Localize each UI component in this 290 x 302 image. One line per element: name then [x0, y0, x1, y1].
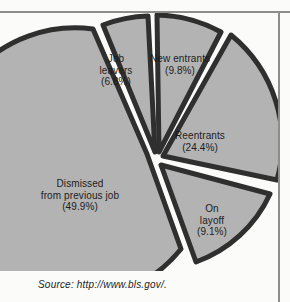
pie-svg	[0, 13, 278, 271]
source-note: Source: http://www.bls.gov/.	[38, 279, 167, 290]
right-divider-rule	[278, 11, 280, 302]
pie-chart-figure: Job leavers (6.8%) New entrants (9.8%) R…	[0, 0, 290, 302]
pie-chart-canvas: Job leavers (6.8%) New entrants (9.8%) R…	[0, 13, 278, 271]
